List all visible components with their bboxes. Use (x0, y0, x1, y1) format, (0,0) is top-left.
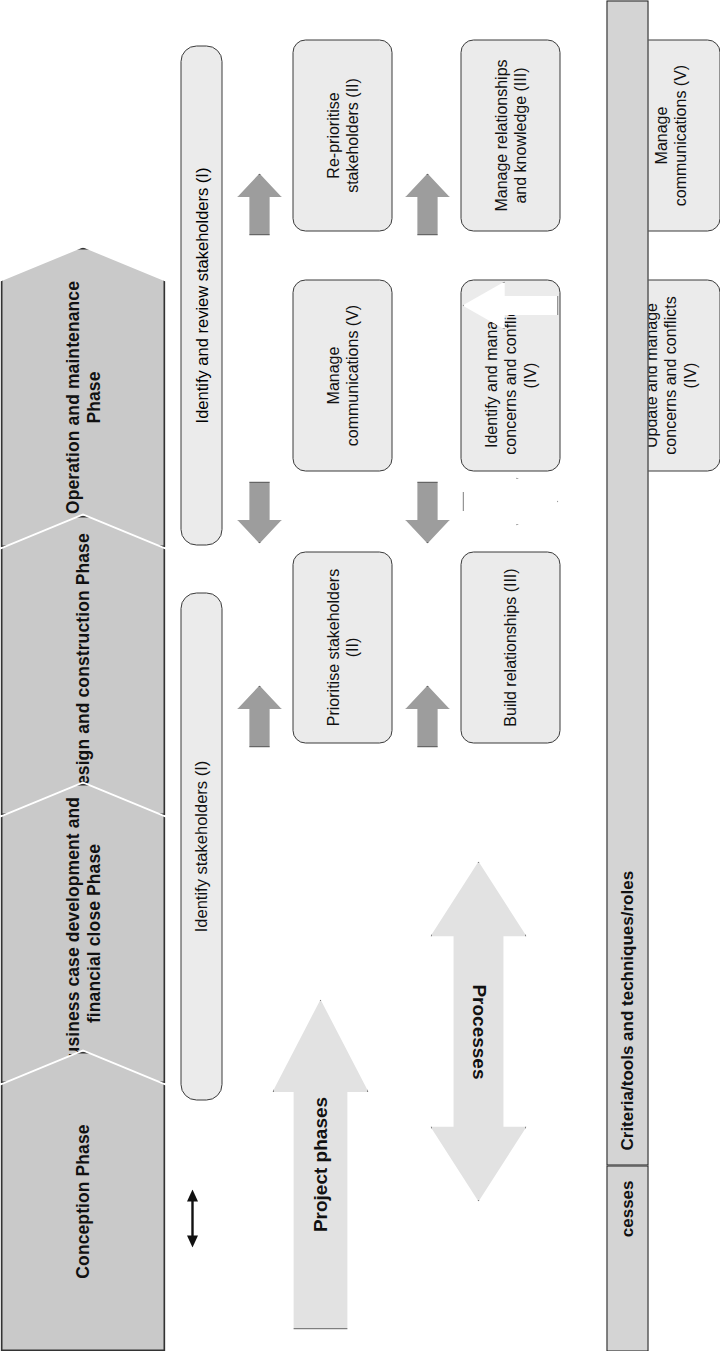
phase-chevron-design-construction[interactable]: Design and construction Phase (0, 515, 165, 815)
phase-chevron-operation-maintenance[interactable]: Operation and maintenance Phase (0, 247, 165, 547)
process-box-manage-communications-2-label: Manage communications (V) (651, 40, 689, 230)
phase-chevron-business-case[interactable]: Business case development and financial … (0, 783, 165, 1083)
flow-arrow-concerns-to-communications (404, 481, 450, 543)
process-box-build-relationships[interactable]: Build relationships (III) (460, 551, 560, 743)
legend-label-processes: Processes (467, 983, 489, 1078)
phase-label-business-case: Business case development and financial … (62, 785, 103, 1081)
table-cell-processes: cesses (606, 1165, 648, 1351)
process-label-identify-review-stakeholders: Identify and review stakeholders (I) (192, 167, 211, 423)
process-box-prioritise-stakeholders[interactable]: Prioritise stakeholders (II) (292, 551, 392, 743)
process-box-update-manage-concerns-label: Update and manage concerns and conflicts… (641, 280, 699, 470)
flow-arrow-reprioritise-to-manage-rel (404, 173, 450, 235)
table-header-criteria: Criteria/tools and techniques/roles (606, 0, 648, 1165)
process-label-identify-stakeholders: Identify stakeholders (I) (191, 752, 211, 940)
legend-processes-arrow: Processes (430, 861, 526, 1201)
process-label-build-relationships: Build relationships (III) (500, 560, 519, 734)
table-label-processes: cesses (617, 1166, 637, 1350)
phase-link-arrow-conception (185, 1189, 199, 1247)
flow-arrow-identify-to-prioritise (236, 685, 282, 747)
process-box-manage-communications[interactable]: Manage communications (V) (292, 279, 392, 471)
process-label-manage-communications: Manage communications (V) (323, 280, 361, 470)
table-label-criteria: Criteria/tools and techniques/roles (617, 870, 637, 1164)
process-label-re-prioritise-stakeholders: Re-prioritise stakeholders (II) (323, 40, 361, 230)
phase-label-operation-maintenance: Operation and maintenance Phase (62, 249, 103, 545)
flow-arrow-prioritise-to-build (404, 685, 450, 747)
process-box-identify-stakeholders[interactable]: Identify stakeholders (I) (180, 592, 222, 1100)
process-box-manage-relationships-knowledge[interactable]: Manage relationships and knowledge (III) (460, 39, 560, 231)
process-label-prioritise-stakeholders: Prioritise stakeholders (II) (323, 552, 361, 742)
phase-label-conception: Conception Phase (72, 1114, 93, 1288)
process-label-manage-relationships-knowledge: Manage relationships and knowledge (III) (491, 40, 529, 230)
phase-chevron-conception[interactable]: Conception Phase (0, 1051, 165, 1351)
flow-arrow-review-to-reprioritise (236, 173, 282, 235)
project-phase-band: Conception Phase Business case developme… (0, 0, 165, 1351)
phase-label-design-construction: Design and construction Phase (72, 523, 93, 807)
flow-arrow-build-to-concerns (462, 477, 558, 525)
flow-arrow-communications-to-identify (236, 481, 282, 543)
process-box-re-prioritise-stakeholders[interactable]: Re-prioritise stakeholders (II) (292, 39, 392, 231)
legend-project-phases-arrow: Project phases (272, 999, 368, 1329)
legend-label-project-phases: Project phases (309, 1096, 331, 1231)
process-label-identify-review-stakeholders-wrap: Identify and review stakeholders (I) (180, 45, 222, 545)
